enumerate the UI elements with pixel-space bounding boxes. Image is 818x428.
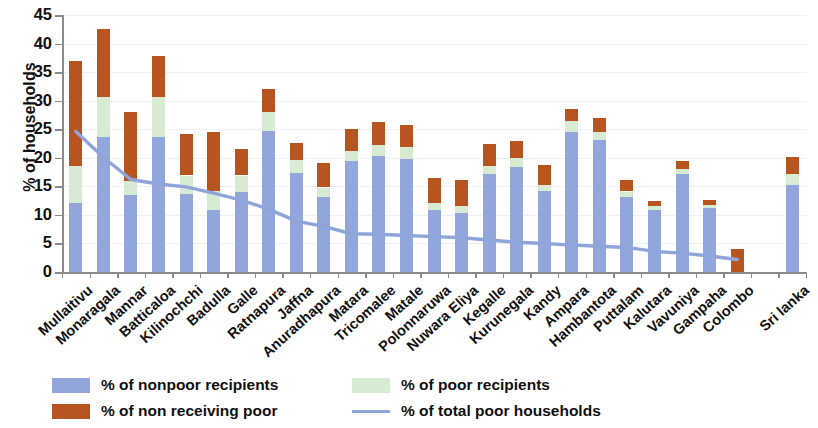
x-axis-tick [145,272,146,278]
y-axis-tick-label: 0 [14,262,52,281]
legend-swatch-nonpoor-icon [52,378,90,393]
y-axis-tick [55,101,62,103]
x-axis-tick [696,272,697,278]
x-axis-tick [778,272,779,278]
legend-label-total-poor-households: % of total poor households [401,402,601,420]
y-axis-tick [55,44,62,46]
legend-row-1: % of nonpoor recipients % of poor recipi… [52,372,712,398]
x-axis-tick [310,272,311,278]
chart-legend: % of nonpoor recipients % of poor recipi… [52,372,712,424]
x-axis-tick [668,272,669,278]
x-axis-tick [172,272,173,278]
y-axis-tick-label: 20 [14,148,52,167]
legend-label-non-receiving-poor: % of non receiving poor [101,402,278,420]
x-axis-tick [200,272,201,278]
total-poor-line-series [62,15,806,272]
y-axis-tick [55,243,62,245]
x-axis-tick [117,272,118,278]
y-axis-tick [55,186,62,188]
y-axis-tick-label: 30 [14,91,52,110]
x-axis-tick [227,272,228,278]
x-axis-tick [530,272,531,278]
legend-item-nonpoor-recipients: % of nonpoor recipients [52,376,352,394]
legend-swatch-poor-recipients-icon [352,378,390,393]
legend-item-total-poor-households: % of total poor households [352,402,601,420]
x-axis-tick [420,272,421,278]
x-axis-tick [806,272,807,278]
x-axis-tick [338,272,339,278]
y-axis-tick [55,158,62,160]
x-axis-tick [641,272,642,278]
x-axis-tick [586,272,587,278]
x-axis-labels: MullaitivuMonaragalaMannarBatticaloaKili… [62,282,806,372]
y-axis-tick-label: 5 [14,233,52,252]
x-axis-tick [365,272,366,278]
y-axis-tick [55,129,62,131]
x-axis-tick [503,272,504,278]
y-axis-tick-label: 25 [14,119,52,138]
x-axis-tick [558,272,559,278]
x-axis-tick [282,272,283,278]
legend-label-nonpoor-recipients: % of nonpoor recipients [101,376,278,394]
x-axis-tick [613,272,614,278]
x-axis-tick [62,272,63,278]
plot-area: 051015202530354045 [62,15,806,272]
x-axis-tick [255,272,256,278]
x-axis-tick [90,272,91,278]
y-axis-tick-label: 10 [14,205,52,224]
legend-item-poor-recipients: % of poor recipients [352,376,550,394]
y-axis-tick [55,15,62,17]
y-axis-tick-label: 40 [14,34,52,53]
chart-figure: % of households 051015202530354045 Mulla… [0,0,818,428]
y-axis-line [62,15,64,272]
x-axis-tick [751,272,752,278]
y-axis-tick-label: 35 [14,62,52,81]
legend-item-non-receiving-poor: % of non receiving poor [52,402,352,420]
legend-row-2: % of non receiving poor % of total poor … [52,398,712,424]
line-path-total-poor-households [76,132,737,260]
x-axis-tick [393,272,394,278]
x-axis-tick [448,272,449,278]
x-axis-tick [475,272,476,278]
y-axis-tick [55,215,62,217]
y-axis-tick [55,72,62,74]
legend-swatch-line-icon [352,404,390,419]
y-axis-tick-label: 15 [14,176,52,195]
legend-swatch-non-receiving-poor-icon [52,404,90,419]
legend-label-poor-recipients: % of poor recipients [401,376,550,394]
x-axis-tick [723,272,724,278]
y-axis-tick-label: 45 [14,5,52,24]
y-axis-tick [55,272,62,274]
